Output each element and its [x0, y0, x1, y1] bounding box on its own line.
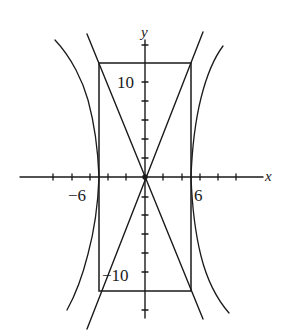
hyperbola-left-branch: [55, 40, 99, 310]
tick-label-y-neg10: −10: [102, 266, 129, 285]
origin-point: [143, 175, 147, 179]
tick-label-x-neg6: −6: [68, 186, 86, 205]
hyperbola-figure: x y −6 6 10 −10: [0, 0, 282, 330]
diagram-canvas: x y −6 6 10 −10: [0, 0, 282, 330]
x-axis-label: x: [264, 168, 272, 184]
hyperbola-right-branch: [191, 46, 229, 313]
tick-label-y-10: 10: [117, 73, 134, 92]
tick-label-x-6: 6: [194, 186, 203, 205]
y-axis-label: y: [139, 24, 148, 40]
